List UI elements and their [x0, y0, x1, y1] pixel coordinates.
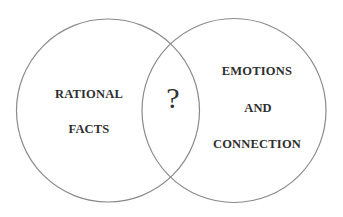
right-label-line-3: CONNECTION [213, 137, 301, 151]
right-label-line-1: EMOTIONS [222, 64, 292, 78]
intersection-question-mark: ? [166, 81, 179, 114]
venn-diagram: RATIONAL FACTS ? EMOTIONS AND CONNECTION [0, 0, 343, 217]
left-label-line-2: FACTS [68, 122, 109, 136]
right-label-line-2: AND [244, 101, 272, 115]
left-label-line-1: RATIONAL [55, 87, 123, 101]
